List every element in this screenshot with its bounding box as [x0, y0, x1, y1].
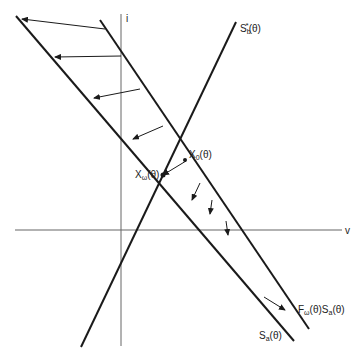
label-arg: (θ) [200, 149, 212, 160]
x0-label: X0(θ) [189, 150, 212, 161]
mapping-arrows [22, 19, 285, 310]
label-mid: (θ)S [310, 304, 329, 315]
sb-star-label: Sb*(θ) [240, 22, 261, 35]
label-arg: (θ) [332, 304, 344, 315]
label-arg: (θ) [270, 330, 282, 341]
label-text: S [259, 330, 266, 341]
sb-star-line [81, 22, 236, 347]
diagram-canvas: i v Sb*(θ) X0(θ) Xω(θ) Fω(θ)Sa(θ) Sa(θ) [0, 0, 364, 361]
f-omega-sa-line [100, 20, 309, 329]
x-omega-point [161, 173, 166, 178]
x0-point [183, 158, 187, 162]
v-axis-label: v [345, 226, 350, 236]
label-arg: (θ) [147, 169, 159, 180]
label-text: X [189, 149, 196, 160]
x-omega-label: Xω(θ) [135, 170, 159, 181]
sa-label: Sa(θ) [259, 331, 282, 342]
label-text: X [135, 169, 142, 180]
label-arg: (θ) [249, 23, 261, 34]
f-omega-sa-label: Fω(θ)Sa(θ) [298, 305, 345, 316]
i-axis-label: i [126, 14, 128, 24]
